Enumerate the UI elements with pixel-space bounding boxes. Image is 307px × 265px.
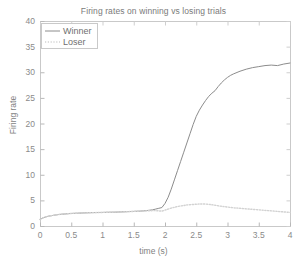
y-axis-tick-label: 10 <box>26 170 36 180</box>
y-axis-label: Firing rate <box>8 80 18 150</box>
x-axis-tick-label: 1.5 <box>128 230 140 240</box>
x-axis-tick-label: 4 <box>288 230 293 240</box>
x-axis-label: time (s) <box>0 246 307 256</box>
x-axis-tick-label: 3.5 <box>253 230 265 240</box>
y-axis-tick-label: 40 <box>26 16 36 26</box>
y-axis-tick-label: 35 <box>26 42 36 52</box>
x-axis-tick-label: 0 <box>38 230 43 240</box>
legend-label-winner: Winner <box>63 26 92 36</box>
legend-label-loser: Loser <box>63 37 86 47</box>
x-axis-tick-label: 0.5 <box>65 230 77 240</box>
y-axis-tick-label: 25 <box>26 93 36 103</box>
figure-canvas: Firing rates on winning vs losing trials… <box>0 0 307 265</box>
x-axis-tick-label: 3 <box>225 230 230 240</box>
y-axis-tick-label: 20 <box>26 119 36 129</box>
y-axis-tick-label: 5 <box>30 195 35 205</box>
x-axis-tick-label: 2 <box>163 230 168 240</box>
x-axis-tick-label: 1 <box>100 230 105 240</box>
x-axis-tick-label: 2.5 <box>190 230 202 240</box>
plot-frame <box>41 22 291 227</box>
y-axis-tick-label: 15 <box>26 144 36 154</box>
plot-area: 00.511.522.533.540510152025303540WinnerL… <box>0 0 307 265</box>
y-axis-tick-label: 30 <box>26 67 36 77</box>
y-axis-tick-label: 0 <box>30 221 35 231</box>
